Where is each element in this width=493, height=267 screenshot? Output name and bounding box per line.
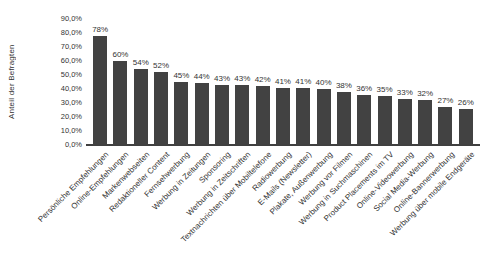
bar-value-label: 42%	[255, 75, 271, 84]
y-axis-tick-label: 30,0%	[30, 98, 82, 108]
bar	[438, 107, 452, 145]
bar-value-label: 78%	[92, 25, 108, 34]
y-axis-tick-label: 0,0%	[30, 140, 82, 150]
bar-value-label: 60%	[112, 50, 128, 59]
bar-value-label: 38%	[336, 81, 352, 90]
bar-slot: 45%	[171, 19, 191, 145]
bar-slot: 41%	[293, 19, 313, 145]
bar	[317, 89, 331, 145]
bar-slot: 78%	[90, 19, 110, 145]
bar-value-label: 33%	[397, 88, 413, 97]
bar-slot: 36%	[354, 19, 374, 145]
y-axis-tick-label: 80,0%	[30, 28, 82, 38]
bar-slot: 54%	[131, 19, 151, 145]
bar-value-label: 35%	[377, 85, 393, 94]
bar	[93, 36, 107, 145]
bar	[276, 88, 290, 145]
bar	[113, 61, 127, 145]
bar-slot: 35%	[374, 19, 394, 145]
bar	[154, 72, 168, 145]
bar	[134, 69, 148, 145]
bar-value-label: 41%	[295, 77, 311, 86]
bar-value-label: 32%	[417, 89, 433, 98]
bar-slot: 32%	[415, 19, 435, 145]
bar-slot: 41%	[273, 19, 293, 145]
bar	[459, 109, 473, 145]
bar-value-label: 44%	[194, 72, 210, 81]
bar	[296, 88, 310, 145]
bar-value-label: 40%	[316, 78, 332, 87]
y-axis-title: Anteil der Befragten	[5, 19, 18, 145]
y-axis-tick-label: 60,0%	[30, 56, 82, 66]
bar	[215, 85, 229, 145]
bar-value-label: 43%	[234, 74, 250, 83]
bar-value-label: 45%	[173, 71, 189, 80]
bar	[256, 86, 270, 145]
bar-slot: 44%	[192, 19, 212, 145]
bar	[418, 100, 432, 145]
bar	[337, 92, 351, 145]
bar-slot: 60%	[110, 19, 130, 145]
bar	[357, 95, 371, 145]
bar	[174, 82, 188, 145]
y-axis-tick-label: 70,0%	[30, 42, 82, 52]
y-axis-tick-label: 50,0%	[30, 70, 82, 80]
y-axis-tick-label: 90,0%	[30, 14, 82, 24]
bar-value-label: 54%	[133, 58, 149, 67]
bar-value-label: 41%	[275, 77, 291, 86]
bar-slot: 38%	[334, 19, 354, 145]
bar-slot: 43%	[232, 19, 252, 145]
bar-value-label: 43%	[214, 74, 230, 83]
bar-slot: 43%	[212, 19, 232, 145]
bar-slot: 40%	[313, 19, 333, 145]
bar-slot: 42%	[253, 19, 273, 145]
y-axis-tick-label: 20,0%	[30, 112, 82, 122]
bar-chart: Anteil der Befragten 0,0%10,0%20,0%30,0%…	[0, 0, 493, 267]
bar	[398, 99, 412, 145]
bar-slot: 26%	[456, 19, 476, 145]
bar-value-label: 52%	[153, 61, 169, 70]
bar	[235, 85, 249, 145]
bar	[378, 96, 392, 145]
bar-slot: 52%	[151, 19, 171, 145]
plot-area: 78%60%54%52%45%44%43%43%42%41%41%40%38%3…	[90, 19, 476, 145]
x-axis-line	[86, 144, 480, 146]
y-axis-tick-label: 10,0%	[30, 126, 82, 136]
bar-value-label: 27%	[437, 96, 453, 105]
bar-value-label: 36%	[356, 84, 372, 93]
y-axis-tick-label: 40,0%	[30, 84, 82, 94]
bar-slot: 33%	[395, 19, 415, 145]
bar	[195, 83, 209, 145]
bar-value-label: 26%	[458, 98, 474, 107]
bar-slot: 27%	[435, 19, 455, 145]
